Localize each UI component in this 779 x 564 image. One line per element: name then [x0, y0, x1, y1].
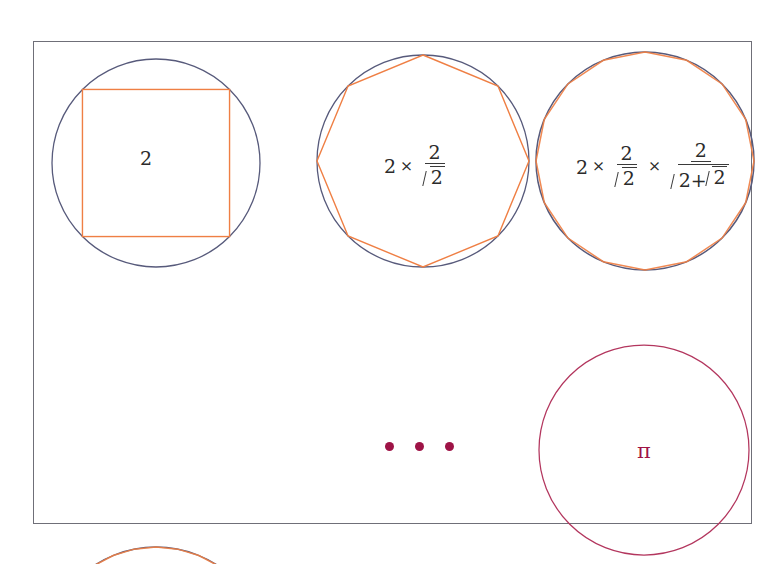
dot-2 [415, 442, 424, 451]
panel-32gon-graphic [1, 251, 321, 551]
times-symbol: × [400, 159, 413, 175]
sqrt-content: 2 [712, 166, 727, 187]
fraction-2: 2 2+2 [668, 141, 733, 193]
figure-frame: 2 2 × 2 2 [33, 41, 752, 524]
inscribed-square [82, 89, 229, 236]
times-symbol-2: × [648, 159, 661, 175]
sqrt-content: 2 [622, 167, 637, 188]
sqrt-tick-icon [707, 166, 713, 187]
panel-square-formula: 2 [140, 147, 152, 168]
numerator: 2 [691, 141, 711, 162]
panel-16gon: 2 × 2 2 × 2 2+2 [481, 1, 779, 251]
sqrt-content: 2 [430, 166, 445, 187]
panel-32gon: 2 × 2 2 × 2 2+2 × [1, 251, 301, 531]
fraction-1: 2 2 [420, 143, 449, 190]
sqrt-content: 2+2 [678, 164, 730, 190]
times-symbol-1: × [592, 159, 605, 175]
sqrt-radical: 2 [424, 166, 445, 187]
panel-ellipsis [351, 401, 481, 461]
inscribed-32gon [44, 547, 269, 564]
panel-octagon-formula: 2 × 2 2 [384, 143, 452, 190]
circle-outline [52, 59, 260, 267]
plus-symbol: + [691, 169, 707, 191]
denominator: 2 [612, 165, 641, 191]
panel-octagon: 2 × 2 2 [241, 1, 521, 251]
panel-square: 2 [1, 1, 261, 251]
sqrt-radical-outer: 2+2 [672, 164, 729, 190]
panel-16gon-formula: 2 × 2 2 × 2 2+2 [576, 141, 736, 193]
sqrt-radical: 2 [616, 167, 637, 188]
panel-pi: π [481, 251, 779, 531]
ellipsis-dots [385, 442, 454, 451]
figure-root: 2 2 × 2 2 [0, 0, 779, 564]
term-lead: 2 [140, 149, 152, 168]
dot-3 [445, 442, 454, 451]
numerator: 2 [617, 144, 637, 165]
denominator: 2+2 [668, 162, 733, 193]
sqrt-tick-icon [424, 166, 430, 187]
term-a: 2 [679, 169, 691, 191]
dot-1 [385, 442, 394, 451]
fraction-1: 2 2 [612, 144, 641, 191]
term-lead: 2 [384, 157, 396, 176]
pi-symbol: π [637, 439, 651, 463]
sqrt-radical-inner: 2 [707, 166, 728, 187]
sqrt-tick-icon [672, 164, 678, 190]
numerator: 2 [425, 143, 445, 164]
term-lead: 2 [576, 158, 588, 177]
panel-pi-graphic [481, 251, 779, 551]
circle-outline [44, 547, 268, 564]
denominator: 2 [420, 164, 449, 190]
sqrt-tick-icon [616, 167, 622, 188]
